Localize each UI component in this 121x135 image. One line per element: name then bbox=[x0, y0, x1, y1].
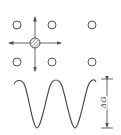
hatched-atom bbox=[30, 38, 40, 48]
empty-lattice-sites bbox=[13, 21, 96, 66]
lattice-site bbox=[13, 21, 21, 29]
lattice-site bbox=[88, 58, 96, 66]
energy-wave bbox=[14, 80, 96, 128]
lattice-site bbox=[88, 21, 96, 29]
delta-g-label: ΔG bbox=[99, 95, 108, 109]
lattice-site bbox=[13, 58, 21, 66]
lattice-site bbox=[48, 58, 56, 66]
lattice-site bbox=[48, 21, 56, 29]
diffusion-diagram bbox=[0, 0, 121, 135]
